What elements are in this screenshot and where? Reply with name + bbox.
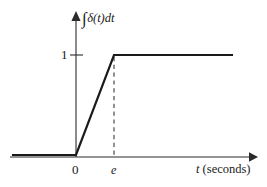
x-axis-label: t (seconds) — [196, 163, 251, 176]
figure-container: ∫δ(t)dt 1 0 e t (seconds) — [0, 0, 267, 187]
x-axis-arrowhead — [249, 152, 258, 162]
x-axis-units: (seconds) — [203, 162, 251, 176]
y-axis-arrowhead — [71, 11, 80, 21]
step-response-curve — [12, 55, 233, 155]
plot-canvas — [0, 0, 267, 187]
x-axis-variable: t — [196, 162, 199, 176]
x-tick-label-e: e — [111, 164, 116, 176]
y-axis-label-suffix: dt — [105, 11, 115, 25]
x-tick-label-zero: 0 — [72, 163, 79, 176]
y-tick-label-one: 1 — [61, 48, 68, 61]
y-axis-label-body: δ(t) — [87, 11, 105, 25]
integral-sign-icon: ∫ — [82, 9, 87, 28]
y-axis-label: ∫δ(t)dt — [82, 8, 115, 25]
